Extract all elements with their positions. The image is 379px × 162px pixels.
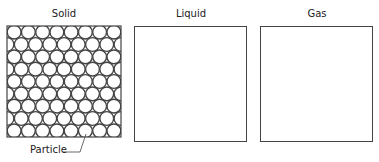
- particle-circle: [64, 99, 78, 113]
- particle-circle: [93, 50, 107, 64]
- particle-circle: [29, 38, 43, 52]
- particle-circle: [86, 112, 100, 126]
- particle-circle: [71, 38, 85, 52]
- particle-circle: [7, 25, 21, 39]
- particle-circle: [78, 75, 92, 89]
- particle-circle: [7, 124, 21, 138]
- particle-circle: [71, 112, 85, 126]
- particle-circle: [14, 87, 28, 101]
- particle-circle: [57, 87, 71, 101]
- particle-circle: [21, 25, 35, 39]
- particle-circle: [29, 87, 43, 101]
- particle-circle: [86, 87, 100, 101]
- particle-circle: [36, 25, 50, 39]
- particle-circle: [50, 124, 64, 138]
- particle-circle: [107, 99, 121, 113]
- particle-circle: [107, 124, 121, 138]
- particle-circle: [64, 124, 78, 138]
- solid-particles: [0, 25, 128, 137]
- particle-circle: [86, 62, 100, 76]
- particle-circle: [57, 38, 71, 52]
- particle-label: Particle: [30, 144, 67, 155]
- particle-circle: [71, 62, 85, 76]
- solid-particle-diagram: [0, 0, 379, 162]
- particle-circle: [50, 50, 64, 64]
- particle-circle: [64, 25, 78, 39]
- particle-circle: [78, 50, 92, 64]
- particle-circle: [57, 112, 71, 126]
- particle-circle: [50, 99, 64, 113]
- particle-circle: [43, 62, 57, 76]
- particle-circle: [14, 112, 28, 126]
- particle-circle: [14, 62, 28, 76]
- particle-circle: [29, 112, 43, 126]
- particle-circle: [71, 87, 85, 101]
- particle-circle: [64, 75, 78, 89]
- particle-circle: [21, 124, 35, 138]
- particle-circle: [7, 75, 21, 89]
- particle-circle: [107, 25, 121, 39]
- particle-circle: [100, 112, 114, 126]
- particle-circle: [86, 38, 100, 52]
- particle-circle: [50, 25, 64, 39]
- particle-circle: [21, 75, 35, 89]
- particle-circle: [36, 124, 50, 138]
- particle-circle: [78, 99, 92, 113]
- particle-circle: [50, 75, 64, 89]
- particle-circle: [36, 75, 50, 89]
- particle-circle: [78, 25, 92, 39]
- particle-circle: [93, 124, 107, 138]
- particle-circle: [100, 87, 114, 101]
- particle-circle: [93, 75, 107, 89]
- particle-circle: [14, 38, 28, 52]
- particle-circle: [100, 62, 114, 76]
- particle-circle: [43, 112, 57, 126]
- particle-circle: [107, 75, 121, 89]
- particle-circle: [107, 50, 121, 64]
- particle-circle: [43, 38, 57, 52]
- particle-circle: [21, 99, 35, 113]
- particle-circle: [21, 50, 35, 64]
- particle-circle: [7, 50, 21, 64]
- particle-circle: [64, 50, 78, 64]
- particle-circle: [36, 99, 50, 113]
- particle-circle: [29, 62, 43, 76]
- particle-circle: [43, 87, 57, 101]
- particle-circle: [93, 99, 107, 113]
- particle-circle: [57, 62, 71, 76]
- particle-circle: [36, 50, 50, 64]
- particle-circle: [100, 38, 114, 52]
- particle-circle: [7, 99, 21, 113]
- particle-circle: [93, 25, 107, 39]
